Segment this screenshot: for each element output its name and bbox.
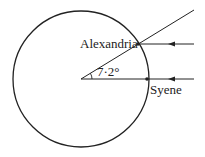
eratosthenes-diagram: Alexandria Syene 7·2°: [0, 0, 205, 157]
syene-label: Syene: [150, 82, 182, 97]
syene-point: [145, 77, 149, 81]
arrowhead-syene-icon: [168, 77, 175, 82]
alexandria-label: Alexandria: [80, 36, 138, 51]
arrowhead-alexandria-icon: [168, 42, 175, 47]
angle-label: 7·2°: [97, 64, 120, 79]
angle-arc: [90, 73, 92, 79]
